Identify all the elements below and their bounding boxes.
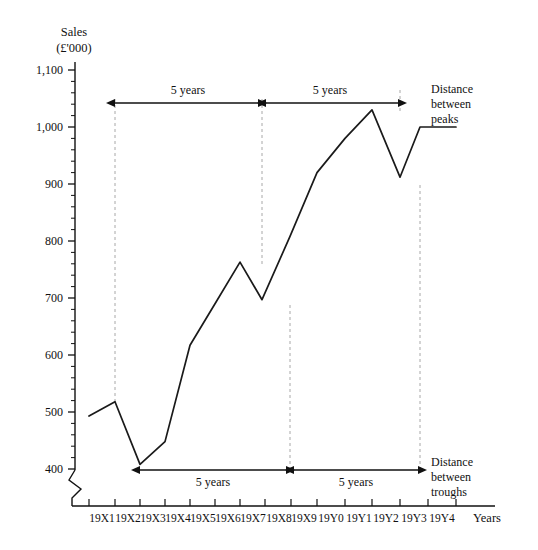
x-tick-label-19X1: 19X1 xyxy=(89,512,115,524)
peaks-note-line1: Distance xyxy=(431,82,473,96)
bottom-span-annotations: 5 years 5 years xyxy=(140,470,418,489)
y-axis-title-line2: (£'000) xyxy=(56,41,92,55)
y-axis xyxy=(69,62,81,506)
x-tick-label-19X6: 19X6 xyxy=(215,512,241,524)
x-tick-label-19X7: 19X7 xyxy=(240,512,266,524)
sales-data-line xyxy=(89,110,456,465)
troughs-note-line2: between xyxy=(431,470,471,484)
bottom-span-2-label: 5 years xyxy=(339,475,374,489)
troughs-note-line1: Distance xyxy=(431,455,473,469)
chart-canvas: Sales (£'000) 1,100 1,000 900 800 700 60… xyxy=(0,0,538,550)
x-tick-label-19X8: 19X8 xyxy=(266,512,292,524)
x-axis-ticks xyxy=(89,499,456,506)
x-tick-label-19Y2: 19Y2 xyxy=(373,512,399,524)
distance-between-peaks-note: Distance between peaks xyxy=(431,82,473,126)
bottom-span-1-label: 5 years xyxy=(196,475,231,489)
distance-between-troughs-note: Distance between troughs xyxy=(431,455,473,499)
x-tick-label-19Y3: 19Y3 xyxy=(401,512,427,524)
x-tick-label-19Y1: 19Y1 xyxy=(346,512,372,524)
y-axis-break-zigzag xyxy=(69,470,81,506)
peaks-note-line2: between xyxy=(431,97,471,111)
peaks-note-line3: peaks xyxy=(431,112,459,126)
x-tick-label-19X2: 19X2 xyxy=(115,512,141,524)
top-span-annotations: 5 years 5 years xyxy=(115,83,398,103)
x-axis-title: Years xyxy=(473,511,501,525)
y-tick-label-600: 600 xyxy=(45,348,63,362)
top-span-2-label: 5 years xyxy=(313,83,348,97)
x-tick-label-19X5: 19X5 xyxy=(190,512,216,524)
y-axis-ticks: 1,100 1,000 900 800 700 600 500 400 xyxy=(36,63,75,476)
y-axis-title-line1: Sales xyxy=(61,25,88,39)
y-tick-label-700: 700 xyxy=(45,291,63,305)
y-tick-label-800: 800 xyxy=(45,234,63,248)
y-tick-label-900: 900 xyxy=(45,177,63,191)
x-tick-label-19Y4: 19Y4 xyxy=(429,512,455,524)
x-tick-label-19Y0: 19Y0 xyxy=(318,512,344,524)
x-tick-label-19X9: 19X9 xyxy=(291,512,317,524)
top-span-1-label: 5 years xyxy=(171,83,206,97)
x-tick-label-19X3: 19X3 xyxy=(140,512,166,524)
guide-lines xyxy=(115,90,420,470)
x-tick-label-19X4: 19X4 xyxy=(165,512,191,524)
y-tick-label-500: 500 xyxy=(45,405,63,419)
y-tick-label-1100: 1,100 xyxy=(36,63,63,77)
sales-line-chart: Sales (£'000) 1,100 1,000 900 800 700 60… xyxy=(0,0,538,550)
troughs-note-line3: troughs xyxy=(431,485,467,499)
y-tick-label-1000: 1,000 xyxy=(36,120,63,134)
y-tick-label-400: 400 xyxy=(45,462,63,476)
x-axis-tick-labels: 19X1 19X2 19X3 19X4 19X5 19X6 19X7 19X8 … xyxy=(89,511,501,525)
